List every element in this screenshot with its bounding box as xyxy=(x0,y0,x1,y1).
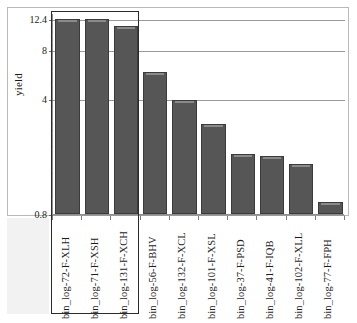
y-minor-tick-mark xyxy=(51,84,53,85)
x-tick-label: bin_log-132-F-XCL xyxy=(176,232,187,319)
bar-top-cap xyxy=(58,20,77,22)
x-label-cell: bin_log-102-F-XLL xyxy=(286,216,315,323)
bar[interactable] xyxy=(318,202,343,214)
y-minor-tick-mark xyxy=(51,42,53,43)
bar-top-cap xyxy=(146,73,165,75)
y-tick-mark xyxy=(49,51,53,52)
y-minor-tick-mark xyxy=(51,28,53,29)
y-minor-tick-mark xyxy=(51,120,53,121)
y-axis-title: yield xyxy=(12,73,24,96)
x-tick-label: bin_log-102-F-XLL xyxy=(293,233,304,319)
bar-top-cap xyxy=(234,155,253,157)
bar-top-cap xyxy=(292,165,311,167)
y-tick-label: 12.4 xyxy=(30,15,48,25)
y-minor-tick-mark xyxy=(51,170,53,171)
x-tick-label: bin_log-101-F-XSL xyxy=(206,233,217,319)
bar[interactable] xyxy=(172,100,197,214)
bar-chart-figure: yield 0.84812.4 bin_log-72-F-XLHbin_log-… xyxy=(0,0,357,323)
x-tick-label: bin_log-71-F-XSH xyxy=(89,237,100,319)
x-label-cell: bin_log-101-F-XSL xyxy=(198,216,227,323)
x-label-cell: bin_log-71-F-XSH xyxy=(81,216,110,323)
bar[interactable] xyxy=(143,72,168,214)
x-label-cell: bin_log-77-F-FPH xyxy=(315,216,344,323)
y-minor-tick-mark xyxy=(51,22,53,23)
y-minor-tick-mark xyxy=(51,133,53,134)
x-label-cell: bin_log-131-F-XCH xyxy=(110,216,139,323)
y-minor-tick-mark xyxy=(51,60,53,61)
y-minor-tick-mark xyxy=(51,149,53,150)
x-label-cell: bin_log-41-F-IQB xyxy=(256,216,285,323)
x-tick-label: bin_log-41-F-IQB xyxy=(264,240,275,319)
y-tick-mark xyxy=(49,20,53,21)
y-minor-tick-mark xyxy=(51,199,53,200)
bar-top-cap xyxy=(88,20,107,22)
plot-area xyxy=(52,14,344,215)
bar[interactable] xyxy=(85,19,110,214)
x-tick-label: bin_log-77-F-FPH xyxy=(322,239,333,319)
x-axis-tick-labels: bin_log-72-F-XLHbin_log-71-F-XSHbin_log-… xyxy=(52,216,344,323)
y-tick-label: 4 xyxy=(42,95,47,105)
y-tick-label: 0.8 xyxy=(35,210,48,220)
y-tick-label: 8 xyxy=(42,46,47,56)
bar-top-cap xyxy=(321,203,340,205)
bar-top-cap xyxy=(263,157,282,159)
bar[interactable] xyxy=(114,26,139,214)
x-label-cell: bin_log-56-F-BHV xyxy=(140,216,169,323)
y-minor-tick-mark xyxy=(51,71,53,72)
bar[interactable] xyxy=(55,19,80,214)
y-minor-tick-mark xyxy=(51,109,53,110)
bar-top-cap xyxy=(175,101,194,103)
x-tick-label: bin_log-56-F-BHV xyxy=(147,236,158,319)
y-tick-mark xyxy=(49,100,53,101)
x-label-cell: bin_log-72-F-XLH xyxy=(52,216,81,323)
x-label-cell: bin_log-132-F-XCL xyxy=(169,216,198,323)
bar-top-cap xyxy=(204,125,223,127)
bar[interactable] xyxy=(201,124,226,214)
bar[interactable] xyxy=(231,154,256,214)
x-label-cell: bin_log-37-F-PSD xyxy=(227,216,256,323)
page-margin-shade xyxy=(7,218,49,314)
x-tick-label: bin_log-72-F-XLH xyxy=(60,237,71,319)
bar[interactable] xyxy=(260,156,285,214)
x-tick-label: bin_log-131-F-XCH xyxy=(118,231,129,319)
bar[interactable] xyxy=(289,164,314,214)
x-tick-mark xyxy=(344,216,345,220)
y-minor-tick-mark xyxy=(51,35,53,36)
bar-top-cap xyxy=(117,27,136,29)
x-tick-label: bin_log-37-F-PSD xyxy=(235,239,246,319)
